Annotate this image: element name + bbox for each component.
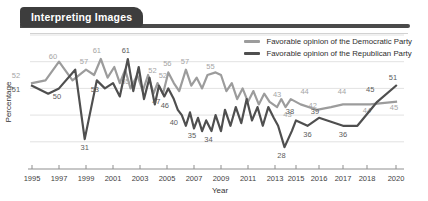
data-label-republican: 39 [311, 107, 319, 116]
x-tick-label: 2013 [267, 174, 284, 183]
legend-swatch-republican [244, 52, 260, 55]
x-tick-label: 1999 [78, 174, 95, 183]
data-label-republican: 53 [91, 85, 99, 94]
data-label-democratic: 45 [390, 103, 398, 112]
data-label-democratic: 61 [93, 46, 101, 55]
party-favorability-chart: 1995199719992001200320052007200920112013… [0, 0, 428, 201]
x-tick-label: 1995 [24, 174, 41, 183]
interpreting-images-panel: Interpreting Images 19951997199920012003… [0, 0, 428, 201]
x-tick-label: 2018 [359, 174, 376, 183]
data-label-republican: 38 [286, 107, 294, 116]
data-label-democratic: 52 [12, 71, 20, 80]
x-axis-title: Year [212, 186, 229, 195]
data-label-democratic: 56 [163, 59, 171, 68]
data-label-republican: 40 [170, 118, 178, 127]
data-label-democratic: 44 [338, 87, 346, 96]
legend-swatch-democratic [244, 40, 260, 43]
data-label-republican: 31 [81, 143, 89, 152]
data-label-republican: 51 [12, 85, 20, 94]
data-label-republican: 51 [389, 73, 397, 82]
x-tick-label: 2003 [132, 174, 149, 183]
x-tick-label: 2009 [213, 174, 230, 183]
x-tick-label: 2015 [288, 174, 305, 183]
legend-item-democratic: Favorable opinion of the Democratic Part… [244, 37, 412, 46]
data-label-republican: 45 [366, 85, 374, 94]
data-label-republican: 61 [122, 46, 130, 55]
data-label-democratic: 43 [273, 90, 281, 99]
data-label-democratic: 60 [49, 52, 57, 61]
data-label-republican: 36 [339, 130, 347, 139]
data-label-democratic: 52 [148, 66, 156, 75]
x-tick-label: 2007 [186, 174, 203, 183]
x-tick-label: 2001 [105, 174, 122, 183]
chart-legend: Favorable opinion of the Democratic Part… [244, 37, 412, 58]
x-tick-label: 2017 [335, 174, 352, 183]
data-label-democratic: 52 [159, 71, 167, 80]
data-label-republican: 28 [277, 151, 285, 160]
data-label-republican: 46 [161, 101, 169, 110]
x-tick-label: 2020 [388, 174, 405, 183]
data-label-democratic: 44 [300, 87, 308, 96]
legend-label-republican: Favorable opinion of the Republican Part… [266, 49, 411, 58]
legend-item-republican: Favorable opinion of the Republican Part… [244, 49, 411, 58]
data-label-democratic: 57 [80, 57, 88, 66]
x-tick-label: 2005 [159, 174, 176, 183]
legend-label-democratic: Favorable opinion of the Democratic Part… [266, 37, 412, 46]
data-label-republican: 47 [152, 97, 160, 106]
data-label-republican: 50 [53, 92, 61, 101]
data-label-democratic: 55 [206, 62, 214, 71]
data-label-democratic: 57 [181, 57, 189, 66]
x-tick-label: 2011 [240, 174, 256, 183]
data-label-republican: 34 [204, 135, 212, 144]
data-label-republican: 35 [188, 131, 196, 140]
x-tick-label: 2016 [311, 174, 328, 183]
x-tick-label: 1997 [51, 174, 68, 183]
data-label-republican: 36 [303, 130, 311, 139]
